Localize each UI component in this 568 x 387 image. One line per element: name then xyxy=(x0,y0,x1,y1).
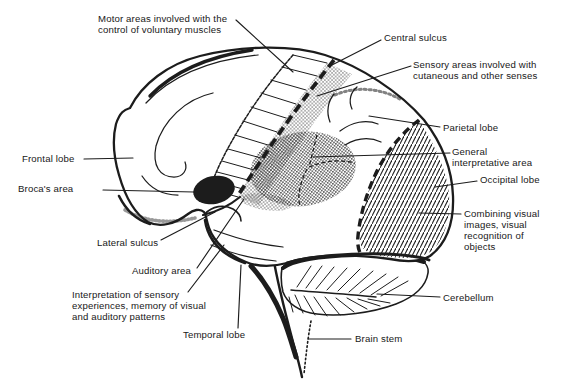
leader-central-sulcus xyxy=(330,40,381,66)
cerebellum-drawing xyxy=(281,255,428,316)
label-brocas-area: Broca's area xyxy=(18,183,73,194)
label-brain-stem: Brain stem xyxy=(355,333,402,344)
label-frontal-lobe: Frontal lobe xyxy=(22,153,74,164)
label-combining-visual: Combining visual images, visual recognit… xyxy=(464,208,539,252)
label-sensory-areas: Sensory areas involved with cutaneous an… xyxy=(413,59,537,81)
brain-functional-areas-diagram: Motor areas involved with the control of… xyxy=(0,0,568,387)
label-auditory-area: Auditory area xyxy=(132,265,191,276)
leader-interpretation xyxy=(188,245,224,292)
label-central-sulcus: Central sulcus xyxy=(384,32,447,43)
label-temporal-lobe: Temporal lobe xyxy=(183,329,245,340)
label-cerebellum: Cerebellum xyxy=(443,292,494,303)
label-interpretation: Interpretation of sensory experiences, m… xyxy=(72,289,206,322)
label-occipital-lobe: Occipital lobe xyxy=(480,174,540,185)
label-motor-areas: Motor areas involved with the control of… xyxy=(98,13,227,35)
leader-temporal-lobe xyxy=(238,265,241,328)
label-lateral-sulcus: Lateral sulcus xyxy=(97,237,158,248)
label-general-area: General interpretative area xyxy=(452,146,532,168)
label-parietal-lobe: Parietal lobe xyxy=(443,122,498,133)
